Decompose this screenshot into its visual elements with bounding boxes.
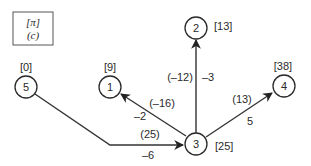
node-5-label: 5 <box>23 81 29 93</box>
edge-3-2: (–12) –3 <box>167 40 214 133</box>
edge-3-2-cost: –3 <box>202 71 214 83</box>
edge-3-4-reduced-cost: (13) <box>232 93 252 105</box>
node-5: 5 [0] <box>15 61 37 98</box>
node-1-potential: [9] <box>104 61 116 73</box>
network-diagram: [π] (c) (25) –6 (–16) –2 (–12) –3 (13) 5… <box>0 0 311 166</box>
node-2-label: 2 <box>193 22 199 34</box>
node-1: 1 [9] <box>99 61 121 98</box>
node-3-label: 3 <box>193 138 199 150</box>
edge-3-4: (13) 5 <box>206 93 272 137</box>
node-3-potential: [25] <box>215 140 233 152</box>
node-5-potential: [0] <box>20 61 32 73</box>
node-4: 4 [38] <box>273 60 295 97</box>
edge-5-3-reduced-cost: (25) <box>140 128 160 140</box>
node-4-potential: [38] <box>274 60 292 72</box>
node-4-label: 4 <box>281 80 287 92</box>
edge-3-4-cost: 5 <box>247 115 253 127</box>
node-2-potential: [13] <box>214 20 232 32</box>
node-2: 2 [13] <box>185 17 232 39</box>
edge-5-3-cost: –6 <box>142 149 154 161</box>
node-1-label: 1 <box>107 81 113 93</box>
edge-3-1-cost: –2 <box>134 110 146 122</box>
legend-box: [π] (c) <box>13 12 53 45</box>
edge-3-1-reduced-cost: (–16) <box>149 97 175 109</box>
legend-potential: [π] <box>26 16 40 28</box>
legend-cost: (c) <box>27 29 40 42</box>
node-3: 3 [25] <box>185 133 233 155</box>
edge-3-2-reduced-cost: (–12) <box>167 71 193 83</box>
